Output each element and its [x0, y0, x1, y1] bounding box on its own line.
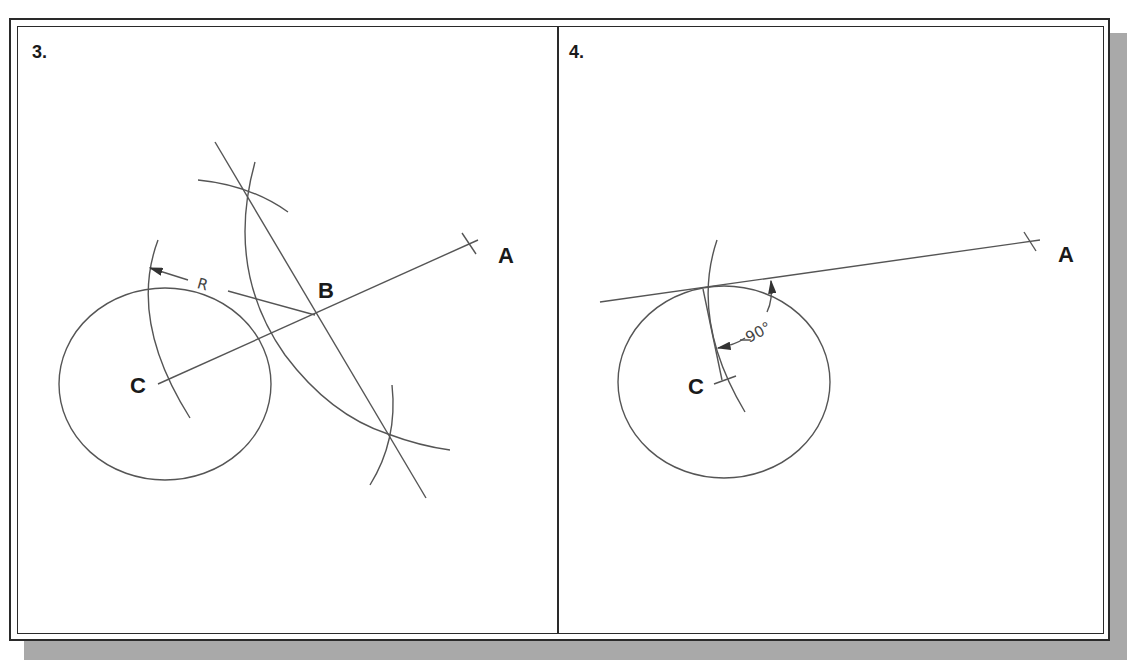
arc-radius-r — [148, 240, 190, 418]
point-a-label: A — [498, 243, 514, 268]
angle-label: 90° — [742, 318, 774, 346]
tangent-line — [600, 240, 1040, 302]
lower-arc — [370, 385, 393, 485]
tick-a — [462, 233, 476, 254]
tick-c — [714, 376, 736, 384]
construction-arc — [708, 240, 745, 412]
point-a-label: A — [1058, 242, 1074, 267]
radius-dim-line-left — [150, 268, 188, 280]
point-c-label: C — [688, 374, 704, 399]
circle — [618, 286, 830, 478]
point-b-label: B — [318, 278, 334, 303]
step-label: 3. — [32, 42, 47, 62]
step-label: 4. — [569, 42, 584, 62]
circle — [59, 288, 271, 480]
panel-4: 4. 90° C A — [569, 42, 1074, 478]
radius-line — [703, 289, 722, 380]
upper-arc — [198, 180, 288, 212]
angle-dim-arc-upper — [767, 281, 772, 312]
construction-drawing: 3. R C B A 4. — [0, 0, 1127, 662]
point-c-label: C — [130, 373, 146, 398]
radius-dim-line-right — [228, 291, 315, 315]
large-arc — [245, 162, 450, 450]
radius-label: R — [195, 274, 210, 294]
panel-3: 3. R C B A — [32, 42, 514, 498]
line-c-to-a — [158, 240, 478, 384]
